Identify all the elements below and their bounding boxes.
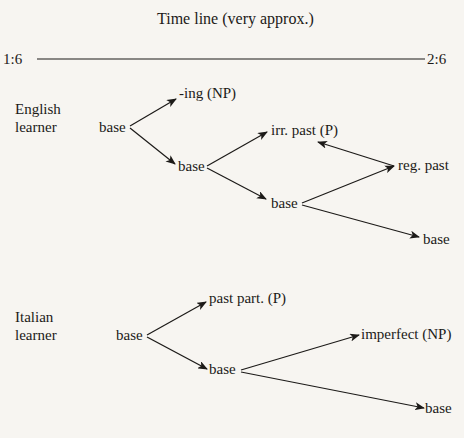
edge-en-root-base2 [130,128,175,164]
timeline-start-label: 1:6 [3,51,22,68]
edge-en-base2-base3 [207,168,266,199]
timeline-end-label: 2:6 [427,51,446,68]
english-node-ing: -ing (NP) [179,85,236,102]
italian-node-base2: base [209,361,236,378]
development-diagram: Time line (very approx.) 1:6 2:6 English… [0,0,464,438]
english-node-irr-past: irr. past (P) [271,122,338,139]
english-node-base3: base [271,195,298,212]
italian-node-past-part: past part. (P) [209,290,286,307]
italian-learner-label-line1: Italian [15,309,53,326]
english-learner-label-line2: learner [15,119,57,136]
english-learner-label-line1: English [15,101,61,118]
edge-it-root-pastpart [147,302,206,335]
edge-it-base2-imperfect [241,335,359,370]
edge-en-base2-irrpast [207,132,267,166]
italian-node-base3: base [425,400,452,417]
edge-en-base3-regpast [302,166,394,203]
italian-learner-label-line2: learner [15,327,57,344]
edge-en-root-ing [130,99,176,126]
diagram-title: Time line (very approx.) [157,10,314,27]
edge-it-root-base2 [147,337,207,369]
italian-node-imperfect: imperfect (NP) [361,326,451,343]
english-node-base4: base [423,231,450,248]
italian-node-root: base [116,327,143,344]
english-node-base2: base [178,158,205,175]
english-node-root: base [99,119,126,136]
edge-en-regpast-irrpast [318,142,394,166]
edge-it-base2-base3 [241,372,424,408]
english-node-reg-past: reg. past [398,157,449,174]
edge-en-base3-base4 [302,205,419,237]
